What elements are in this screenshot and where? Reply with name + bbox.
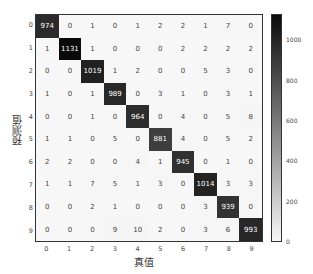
matrix-cell: 1014 [194,173,217,196]
matrix-cell: 0 [239,60,262,83]
matrix-cell: 0 [104,38,127,61]
matrix-cell: 1 [36,128,59,151]
matrix-cell: 5 [104,128,127,151]
matrix-cell: 0 [59,60,82,83]
matrix-cell: 9 [104,218,127,241]
matrix-cell: 0 [36,196,59,219]
matrix-cell: 2 [149,218,172,241]
matrix-cell: 1 [36,83,59,106]
matrix-cell: 3 [149,83,172,106]
y-axis-label: 预测值 [10,115,25,145]
matrix-cell: 0 [81,128,104,151]
matrix-cell: 1 [104,196,127,219]
matrix-cell: 3 [194,218,217,241]
x-tick-label: 8 [224,245,234,253]
y-tick-label: 5 [27,135,33,143]
y-tick-label: 9 [27,227,33,235]
matrix-cell: 3 [217,173,240,196]
matrix-cell: 0 [194,151,217,174]
matrix-cell: 974 [36,15,59,38]
matrix-cell: 0 [149,105,172,128]
y-tick-label: 2 [27,67,33,75]
matrix-cell: 2 [194,38,217,61]
matrix-cell: 939 [217,196,240,219]
matrix-cell: 0 [59,83,82,106]
matrix-cell: 0 [149,196,172,219]
matrix-cell: 3 [217,83,240,106]
matrix-cell: 2 [149,15,172,38]
colorbar-tick-label: 400 [286,157,297,164]
matrix-cell: 6 [217,218,240,241]
matrix-cell: 1 [126,173,149,196]
matrix-cell: 8 [239,105,262,128]
y-tick-label: 1 [27,44,33,52]
x-tick-label: 1 [64,245,74,253]
x-tick-label: 0 [41,245,51,253]
matrix-cell: 0 [126,83,149,106]
y-tick-label: 3 [27,90,33,98]
matrix-cell: 2 [126,60,149,83]
matrix-cell: 5 [194,60,217,83]
colorbar [271,14,282,242]
matrix-cell: 2 [36,151,59,174]
matrix-cell: 7 [81,173,104,196]
x-tick-label: 4 [133,245,143,253]
colorbar-tick-label: 600 [286,117,297,124]
matrix-cell: 0 [126,128,149,151]
x-tick-label: 5 [155,245,165,253]
matrix-cell: 1 [81,15,104,38]
y-tick-label: 7 [27,181,33,189]
x-tick-label: 9 [247,245,257,253]
matrix-cell: 0 [194,83,217,106]
matrix-cell: 0 [126,38,149,61]
matrix-cell: 2 [239,128,262,151]
matrix-cell: 1 [126,15,149,38]
matrix-cell: 7 [217,15,240,38]
matrix-cell: 1 [81,83,104,106]
confusion-matrix: 9740101221701113110002222001019120053010… [35,14,263,242]
matrix-cell: 1 [36,173,59,196]
matrix-cell: 1 [59,173,82,196]
matrix-cell: 0 [194,105,217,128]
x-tick-label: 7 [201,245,211,253]
y-tick-label: 8 [27,204,33,212]
x-tick-label: 3 [110,245,120,253]
matrix-cell: 989 [104,83,127,106]
matrix-cell: 1 [59,128,82,151]
matrix-cell: 0 [239,15,262,38]
matrix-cell: 0 [172,60,195,83]
matrix-cell: 945 [172,151,195,174]
colorbar-tick-label: 800 [286,77,297,84]
matrix-cell: 1 [36,38,59,61]
matrix-cell: 0 [81,151,104,174]
matrix-cell: 0 [104,15,127,38]
matrix-cell: 0 [172,196,195,219]
matrix-cell: 0 [36,105,59,128]
matrix-cell: 2 [59,151,82,174]
matrix-cell: 0 [36,218,59,241]
matrix-cell: 993 [239,218,262,241]
matrix-cell: 0 [239,196,262,219]
matrix-cell: 1 [81,105,104,128]
matrix-cell: 1 [172,83,195,106]
matrix-cell: 0 [194,128,217,151]
matrix-cell: 1 [217,151,240,174]
x-tick-label: 6 [178,245,188,253]
colorbar-tick-label: 200 [286,198,297,205]
matrix-cell: 1 [81,38,104,61]
matrix-cell: 1 [104,60,127,83]
matrix-cell: 3 [217,60,240,83]
matrix-cell: 2 [239,38,262,61]
matrix-cell: 1 [239,83,262,106]
matrix-cell: 0 [149,38,172,61]
matrix-cell: 1131 [59,38,82,61]
colorbar-tick-label: 1000 [286,36,301,43]
matrix-cell: 0 [59,105,82,128]
matrix-cell: 5 [217,128,240,151]
x-tick-label: 2 [87,245,97,253]
matrix-cell: 10 [126,218,149,241]
matrix-cell: 2 [172,15,195,38]
matrix-cell: 0 [104,151,127,174]
matrix-cell: 881 [149,128,172,151]
matrix-cell: 0 [59,218,82,241]
